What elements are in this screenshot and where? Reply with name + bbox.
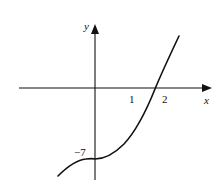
y-axis-arrow-icon <box>91 24 99 34</box>
x-tick-label-1: 1 <box>129 94 135 105</box>
y-intercept-label: −7 <box>74 147 86 158</box>
x-axis-label: x <box>204 95 209 106</box>
x-tick-label-2: 2 <box>162 94 168 105</box>
function-graph <box>0 0 224 190</box>
y-axis-label: y <box>84 21 89 32</box>
x-axis-arrow-icon <box>202 84 212 92</box>
